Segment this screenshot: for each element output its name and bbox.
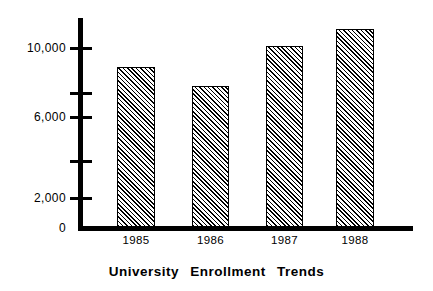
y-tick-label-0: 0 bbox=[59, 222, 66, 234]
bar-1985 bbox=[117, 67, 155, 227]
y-tick-label-2000: 2,000 bbox=[34, 192, 66, 204]
x-tick-label-1987: 1987 bbox=[266, 234, 303, 246]
y-tick-label-6000: 6,000 bbox=[34, 111, 66, 123]
y-tick-10000 bbox=[70, 47, 92, 50]
y-tick-4000 bbox=[70, 160, 92, 163]
chart-title: University Enrollment Trends bbox=[0, 264, 433, 279]
y-tick-8000 bbox=[70, 92, 92, 95]
x-tick-label-1986: 1986 bbox=[192, 234, 229, 246]
bar-1987 bbox=[266, 46, 303, 227]
bar-1986 bbox=[192, 86, 229, 227]
x-tick-label-1988: 1988 bbox=[336, 234, 374, 246]
x-tick-label-1985: 1985 bbox=[117, 234, 155, 246]
y-tick-6000 bbox=[70, 116, 92, 119]
y-tick-label-10000: 10,000 bbox=[27, 42, 66, 54]
bar-1988 bbox=[336, 29, 374, 227]
plot-area: 10,000 6,000 2,000 0 1985 1986 1987 1988… bbox=[0, 0, 433, 291]
y-tick-2000 bbox=[70, 197, 92, 200]
bar-chart-figure: 10,000 6,000 2,000 0 1985 1986 1987 1988… bbox=[0, 0, 433, 291]
